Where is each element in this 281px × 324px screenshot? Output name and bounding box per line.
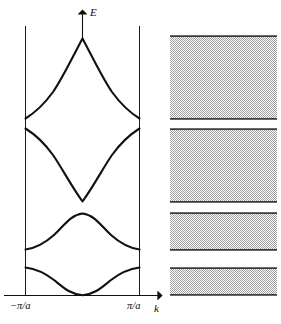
allowed-band-2 xyxy=(170,129,277,202)
dispersion-curve-band-1 xyxy=(26,39,140,119)
band-diagram-canvas xyxy=(0,0,281,324)
allowed-band-3 xyxy=(170,213,277,250)
dispersion-curve-band-4 xyxy=(26,268,140,296)
right-zone-boundary-label: π/a xyxy=(127,301,140,312)
band-structure-figure: E k −π/a π/a xyxy=(0,0,281,324)
left-zone-boundary-label: −π/a xyxy=(10,301,31,312)
dispersion-curve-band-3 xyxy=(26,214,140,250)
wavevector-axis-label: k xyxy=(154,303,159,314)
energy-axis-label: E xyxy=(90,7,97,18)
allowed-bands-panel xyxy=(170,36,277,295)
dispersion-panel xyxy=(4,12,160,296)
allowed-band-1 xyxy=(170,36,277,119)
dispersion-curve-band-2 xyxy=(26,129,140,202)
allowed-band-4 xyxy=(170,268,277,295)
